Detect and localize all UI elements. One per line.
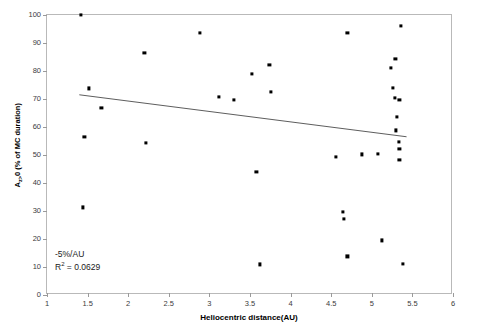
x-tick-label: 2 (126, 300, 130, 308)
r-squared-text: R2 = 0.0629 (55, 260, 100, 273)
y-axis-title-prefix: A (13, 182, 22, 187)
data-point (394, 57, 397, 60)
data-point (346, 255, 349, 258)
y-axis-title: Az>0 (% of MC duration) (13, 5, 24, 285)
data-point (198, 31, 201, 34)
y-tick-label: 100 (28, 11, 41, 19)
data-point (270, 90, 273, 93)
data-point (393, 96, 396, 99)
x-tick-label: 3.5 (245, 300, 255, 308)
y-tick-label: 60 (33, 123, 41, 131)
regression-annotation: -5%/AU R2 = 0.0629 (55, 248, 100, 273)
x-tick-label: 2.5 (164, 300, 174, 308)
data-point (143, 51, 146, 54)
x-tick-mark (47, 293, 48, 297)
data-point (250, 72, 253, 75)
y-tick-label: 90 (33, 39, 41, 47)
y-tick-label: 40 (33, 179, 41, 187)
data-point (258, 263, 261, 266)
y-tick-mark (43, 211, 47, 212)
data-point (395, 129, 398, 132)
data-point (218, 95, 221, 98)
data-point (360, 153, 363, 156)
y-tick-mark (43, 99, 47, 100)
y-tick-mark (43, 267, 47, 268)
y-tick-mark (43, 43, 47, 44)
y-tick-mark (43, 71, 47, 72)
data-point (255, 170, 258, 173)
data-point (398, 99, 401, 102)
x-tick-mark (412, 293, 413, 297)
data-point (401, 263, 404, 266)
data-point (346, 32, 349, 35)
y-axis-title-subscript: z> (17, 176, 23, 182)
x-tick-mark (331, 293, 332, 297)
y-tick-label: 10 (33, 263, 41, 271)
data-point (397, 140, 400, 143)
y-tick-label: 70 (33, 95, 41, 103)
scatter-chart: 0102030405060708090100 11.522.533.544.55… (0, 0, 499, 335)
x-tick-label: 1.5 (82, 300, 92, 308)
x-tick-label: 4.5 (326, 300, 336, 308)
x-tick-mark (453, 293, 454, 297)
data-point (398, 148, 401, 151)
y-tick-mark (43, 239, 47, 240)
data-point (398, 158, 401, 161)
y-tick-label: 50 (33, 151, 41, 159)
data-point (399, 24, 402, 27)
data-point (343, 217, 346, 220)
data-point (395, 115, 398, 118)
x-tick-mark (169, 293, 170, 297)
data-point (88, 87, 91, 90)
data-point (83, 135, 86, 138)
data-point (268, 64, 271, 67)
y-tick-mark (43, 155, 47, 156)
y-axis-title-suffix: 0 (% of MC duration) (13, 103, 22, 176)
x-tick-mark (128, 293, 129, 297)
x-tick-label: 5.5 (407, 300, 417, 308)
plot-area: 0102030405060708090100 11.522.533.544.55… (46, 14, 452, 294)
x-tick-label: 4 (289, 300, 293, 308)
x-tick-label: 1 (45, 300, 49, 308)
y-tick-mark (43, 127, 47, 128)
data-point (341, 210, 344, 213)
x-tick-label: 6 (451, 300, 455, 308)
data-point (144, 142, 147, 145)
x-tick-mark (88, 293, 89, 297)
x-tick-mark (372, 293, 373, 297)
data-point (81, 206, 84, 209)
y-tick-mark (43, 15, 47, 16)
data-point (100, 106, 103, 109)
trendline (47, 15, 451, 293)
x-tick-mark (250, 293, 251, 297)
r-squared-value: = 0.0629 (64, 262, 100, 272)
y-tick-label: 0 (37, 291, 41, 299)
x-axis-title: Heliocentric distance(AU) (46, 313, 452, 322)
data-point (390, 67, 393, 70)
data-point (80, 13, 83, 16)
slope-text: -5%/AU (55, 248, 100, 260)
data-point (334, 156, 337, 159)
data-point (377, 152, 380, 155)
x-tick-mark (291, 293, 292, 297)
data-point (380, 239, 383, 242)
data-point (391, 86, 394, 89)
x-tick-label: 5 (370, 300, 374, 308)
y-tick-label: 20 (33, 235, 41, 243)
x-tick-label: 3 (207, 300, 211, 308)
y-tick-label: 80 (33, 67, 41, 75)
x-tick-mark (209, 293, 210, 297)
y-tick-mark (43, 183, 47, 184)
y-tick-label: 30 (33, 207, 41, 215)
data-point (232, 99, 235, 102)
